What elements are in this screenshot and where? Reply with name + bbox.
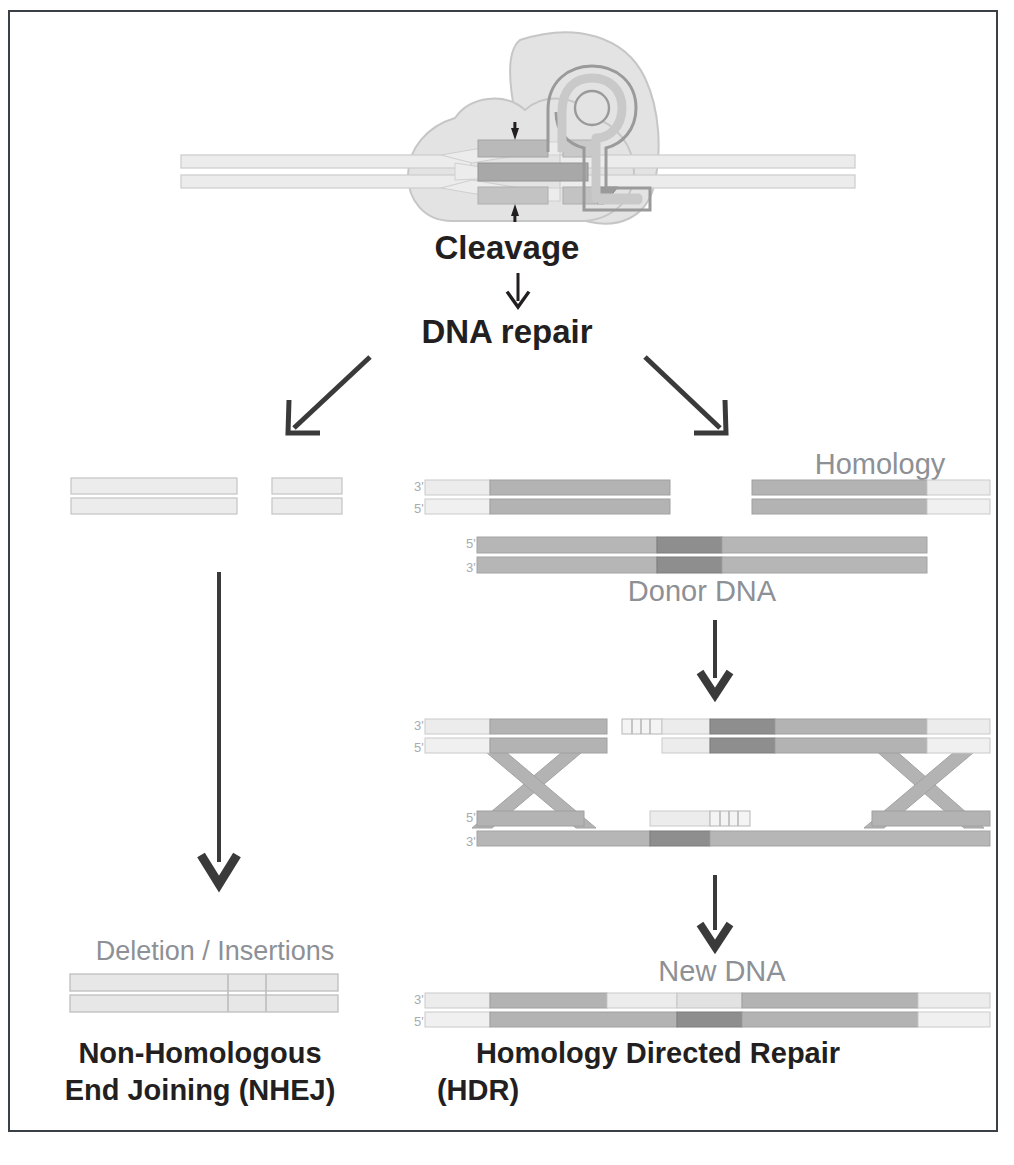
int-top-pale-left (425, 719, 490, 734)
newdna-top-homology-left (490, 993, 607, 1008)
newdna-bottom-pale-left (425, 1012, 490, 1027)
down-arrow-crossover-to-newdna (700, 875, 730, 947)
crispr-repair-diagram: Cleavage DNA repair (0, 0, 1014, 1165)
newdna-3prime-tick: 3' (414, 992, 424, 1007)
donor-top-insert-cassette (657, 537, 722, 553)
hdr-left-bottom-pale (425, 499, 490, 514)
hdr-right-top-pale (927, 480, 990, 495)
donor-5prime-tick: 5' (466, 536, 476, 551)
down-arrow-cleavage-to-repair (508, 273, 528, 307)
newdna-top-pale-mid-left (607, 993, 677, 1008)
donor-dna-label: Donor DNA (628, 575, 777, 607)
target-dna-top-strand-left (181, 155, 471, 168)
intermediate-third-strand (477, 811, 990, 826)
figure-root: Cleavage DNA repair (0, 0, 1014, 1165)
nhej-right-bottom-strand (272, 498, 342, 514)
int-3rd-nick-gap (710, 811, 750, 826)
int-2nd-homology-left (490, 738, 607, 753)
indel-bottom-strand (70, 995, 338, 1012)
hdr-right-top-homology-arm (752, 480, 927, 495)
int-top-insert-cassette (710, 719, 775, 734)
int-2nd-pale-mid (662, 738, 710, 753)
left-fragment-3prime-tick: 3' (414, 479, 424, 494)
int-4th-insert-cassette (650, 831, 710, 846)
int-3rd-homology-right (872, 811, 990, 826)
newdna-bottom-homology-left (490, 1012, 677, 1027)
newdna-5prime-tick: 5' (414, 1014, 424, 1029)
left-resected-dna-fragment: 3' 5' (414, 479, 670, 516)
nhej-left-top-strand (71, 478, 237, 494)
intermediate-top-3prime-tick: 3' (414, 718, 424, 733)
hdr-right-bottom-pale (927, 499, 990, 514)
donor-bottom-insert-cassette (657, 557, 722, 573)
newdna-top-homology-right (742, 993, 918, 1008)
right-resected-dna-fragment (752, 480, 990, 514)
int-top-nick-gap (622, 719, 662, 734)
intermediate-bottom-5prime-tick: 5' (466, 810, 476, 825)
cleavage-label: Cleavage (435, 229, 580, 266)
donor-top-right-arm (722, 537, 927, 553)
intermediate-second-strand (425, 738, 990, 753)
diagonal-arrow-to-hdr (645, 357, 726, 433)
homology-directed-repair-branch: Homology 3' 5' 5' 3' (414, 448, 990, 1106)
indel-top-strand (70, 974, 338, 991)
left-broken-dna-fragment (71, 478, 237, 514)
nhej-title-line1: Non-Homologous (78, 1037, 321, 1069)
int-2nd-pale-right (927, 738, 990, 753)
donor-bottom-left-arm (477, 557, 657, 573)
int-4th-left-arm (477, 831, 650, 846)
int-top-pale-right (927, 719, 990, 734)
newdna-top-strand (425, 993, 990, 1008)
rna-dna-heteroduplex-block (478, 163, 588, 181)
new-dna-label: New DNA (658, 955, 786, 987)
newdna-bottom-strand (425, 1012, 990, 1027)
int-3rd-pale-mid (650, 811, 710, 826)
target-dna-bottom-strand-right (560, 175, 855, 188)
newdna-bottom-homology-right (742, 1012, 918, 1027)
intermediate-fourth-strand (477, 831, 990, 846)
long-down-arrow-nhej (201, 572, 237, 884)
hdr-left-top-pale (425, 480, 490, 495)
strand-invasion-crossover-intermediate: 3' 5' (414, 718, 990, 849)
diagonal-arrow-to-nhej (288, 357, 370, 433)
indel-repaired-dna (70, 974, 338, 1012)
donor-top-left-arm (477, 537, 657, 553)
target-dna-top-strand-right (560, 155, 855, 168)
hdr-title-line1: Homology Directed Repair (476, 1037, 840, 1069)
int-2nd-homology-right (775, 738, 927, 753)
sgrna-loop-opening (575, 91, 609, 125)
int-top-homology-left (490, 719, 607, 734)
newdna-top-insert-region (677, 993, 742, 1008)
newdna-bottom-insert-cassette (677, 1012, 742, 1027)
nhej-right-top-strand (272, 478, 342, 494)
right-broken-dna-fragment (272, 478, 342, 514)
nhej-left-bottom-strand (71, 498, 237, 514)
protospacer-block-upper-left (478, 140, 548, 157)
protospacer-block-lower-left (478, 187, 548, 204)
nhej-title-line2: End Joining (NHEJ) (65, 1074, 336, 1106)
int-top-homology-right (775, 719, 927, 734)
hdr-left-bottom-homology-arm (490, 499, 670, 514)
target-dna-bottom-strand-left (181, 175, 471, 188)
homology-label: Homology (815, 448, 946, 480)
donor-bottom-right-arm (722, 557, 927, 573)
int-3rd-homology-left (477, 811, 584, 826)
newdna-bottom-pale-right (918, 1012, 990, 1027)
newdna-top-pale-right (918, 993, 990, 1008)
int-2nd-insert-cassette (710, 738, 775, 753)
intermediate-top-5prime-tick: 5' (414, 740, 424, 755)
edited-new-dna: 3' 5' (414, 992, 990, 1029)
int-top-pale-mid (662, 719, 710, 734)
cas9-sgrna-target-dna-complex (181, 32, 855, 223)
deletion-insertions-label: Deletion / Insertions (96, 936, 335, 966)
int-2nd-pale-left (425, 738, 490, 753)
intermediate-bottom-3prime-tick: 3' (466, 834, 476, 849)
newdna-top-pale-left (425, 993, 490, 1008)
non-homologous-end-joining-branch: Deletion / Insertions Non-Homologous End… (65, 478, 342, 1106)
down-arrow-donor-to-crossover (700, 620, 730, 695)
cleavage-tick-top (513, 122, 516, 130)
hdr-right-bottom-homology-arm (752, 499, 927, 514)
dna-repair-label: DNA repair (421, 313, 592, 350)
hdr-title-line2: (HDR) (437, 1074, 519, 1106)
intermediate-top-strand (425, 719, 990, 734)
